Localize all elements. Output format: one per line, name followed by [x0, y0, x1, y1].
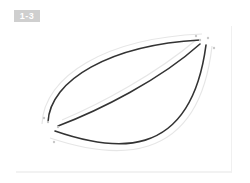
control-point [47, 121, 49, 123]
control-point [207, 37, 209, 39]
main-curves [48, 40, 206, 144]
control-point [43, 117, 45, 119]
lower-curve [55, 45, 206, 144]
upper-curve [48, 40, 200, 122]
lower-guide [50, 46, 212, 151]
control-point [199, 39, 201, 41]
control-point [195, 35, 197, 37]
control-point [53, 141, 55, 143]
control-point [57, 126, 59, 128]
leaf-diagram [0, 0, 250, 183]
upper-guide [42, 34, 202, 124]
diagonal-curve [58, 44, 200, 126]
control-point [213, 47, 215, 49]
